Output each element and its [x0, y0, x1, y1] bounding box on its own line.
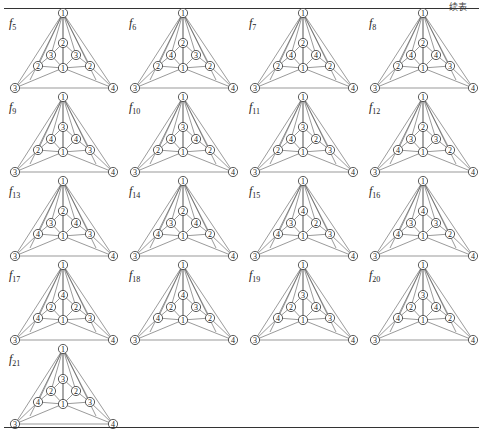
vertex-color-label: 1 [301, 232, 305, 241]
graph-edge [183, 97, 233, 172]
graph-vertex-ur: 4 [71, 134, 80, 144]
vertex-color-label: 4 [111, 168, 115, 177]
vertex-color-label: 1 [301, 93, 305, 102]
vertex-color-label: 1 [181, 232, 185, 241]
graph-vertex-ul: 3 [166, 218, 175, 228]
graph-figure-f9: f9 134134423 [0, 94, 120, 178]
graph-vertex-center: 1 [178, 63, 187, 73]
graph-vertex-ul: 4 [286, 50, 295, 60]
graph-vertex-center: 1 [298, 147, 307, 157]
vertex-color-label: 2 [328, 62, 332, 71]
graph-edge [303, 13, 353, 88]
vertex-color-label: 2 [156, 146, 160, 155]
graph-edge [303, 181, 353, 256]
vertex-color-label: 4 [169, 51, 173, 60]
vertex-color-label: 4 [49, 135, 53, 144]
graph-vertex-ul: 4 [166, 134, 175, 144]
vertex-color-label: 1 [421, 9, 425, 18]
graph-vertex-lr: 2 [325, 61, 334, 71]
graph-diagram: 134134223 [240, 94, 360, 178]
vertex-color-label: 4 [194, 135, 198, 144]
vertex-color-label: 2 [396, 62, 400, 71]
vertex-color-label: 4 [181, 291, 185, 300]
graph-vertex-center: 1 [58, 231, 67, 241]
graph-vertex-ll: 4 [153, 313, 162, 323]
vertex-color-label: 2 [208, 146, 212, 155]
graph-edge [255, 152, 303, 172]
vertex-color-label: 3 [328, 230, 332, 239]
graph-vertex-right: 4 [348, 335, 357, 345]
graph-diagram: 134143243 [240, 178, 360, 262]
vertex-color-label: 1 [181, 9, 185, 18]
graph-vertex-lr: 3 [85, 229, 94, 239]
vertex-color-label: 2 [208, 62, 212, 71]
graph-diagram: 134134422 [120, 94, 240, 178]
graph-edge [135, 320, 183, 340]
vertex-color-label: 3 [448, 62, 452, 71]
graph-vertex-center: 1 [178, 231, 187, 241]
graph-edge [183, 68, 233, 88]
vertex-color-label: 2 [276, 62, 280, 71]
graph-edge [63, 97, 113, 172]
vertex-color-label: 3 [61, 123, 65, 132]
vertex-color-label: 1 [181, 64, 185, 73]
graph-edge [303, 236, 353, 256]
graph-diagram: 134143342 [360, 178, 479, 262]
graph-vertex-ll: 2 [33, 61, 42, 71]
graph-diagram: 134123342 [360, 94, 479, 178]
graph-edge [423, 236, 473, 256]
graph-vertex-center: 1 [58, 63, 67, 73]
graph-edge [255, 236, 303, 256]
graph-vertex-left: 3 [10, 335, 19, 345]
graph-vertex-lr: 2 [205, 313, 214, 323]
vertex-color-label: 3 [301, 123, 305, 132]
vertex-color-label: 4 [396, 146, 400, 155]
vertex-color-label: 1 [421, 316, 425, 325]
vertex-color-label: 1 [421, 232, 425, 241]
graph-vertex-top: 3 [298, 122, 307, 132]
vertex-color-label: 1 [61, 148, 65, 157]
graph-edge [63, 68, 113, 88]
vertex-color-label: 2 [74, 303, 78, 312]
vertex-color-label: 3 [49, 51, 53, 60]
graph-vertex-top: 2 [298, 38, 307, 48]
graph-vertex-ul: 2 [46, 386, 55, 396]
graph-vertex-ul: 2 [406, 302, 415, 312]
graph-vertex-ul: 2 [46, 302, 55, 312]
graph-vertex-top: 2 [178, 206, 187, 216]
vertex-color-label: 4 [471, 252, 475, 261]
graph-vertex-lr: 2 [205, 145, 214, 155]
graph-vertex-left: 3 [370, 83, 379, 93]
vertex-color-label: 3 [88, 146, 92, 155]
graph-vertex-left: 3 [250, 167, 259, 177]
vertex-color-label: 3 [49, 219, 53, 228]
vertex-color-label: 4 [169, 135, 173, 144]
graph-vertex-top: 2 [58, 206, 67, 216]
vertex-color-label: 3 [181, 123, 185, 132]
vertex-color-label: 2 [448, 146, 452, 155]
graph-vertex-ul: 4 [286, 134, 295, 144]
vertex-color-label: 1 [301, 9, 305, 18]
graph-diagram: 134123322 [0, 10, 120, 94]
vertex-color-label: 3 [13, 252, 17, 261]
graph-diagram: 134123442 [120, 178, 240, 262]
graph-edge [375, 152, 423, 172]
graph-figure-f15: f15 134143243 [240, 178, 360, 262]
vertex-color-label: 1 [301, 148, 305, 157]
graph-diagram: 134142243 [0, 262, 120, 346]
graph-vertex-lr: 3 [85, 397, 94, 407]
vertex-color-label: 1 [301, 261, 305, 270]
graph-edge [183, 152, 233, 172]
graph-edge [303, 320, 353, 340]
graph-edge [303, 68, 353, 88]
graph-figure-f7: f7 134124422 [240, 10, 360, 94]
graph-vertex-ll: 4 [33, 397, 42, 407]
graph-vertex-ul: 3 [286, 218, 295, 228]
graph-vertex-left: 3 [10, 251, 19, 261]
graph-vertex-ul: 3 [406, 218, 415, 228]
graph-vertex-ll: 2 [153, 145, 162, 155]
vertex-color-label: 4 [351, 168, 355, 177]
graph-edge [183, 181, 233, 256]
graph-vertex-ur: 2 [71, 302, 80, 312]
graph-vertex-ur: 4 [431, 50, 440, 60]
